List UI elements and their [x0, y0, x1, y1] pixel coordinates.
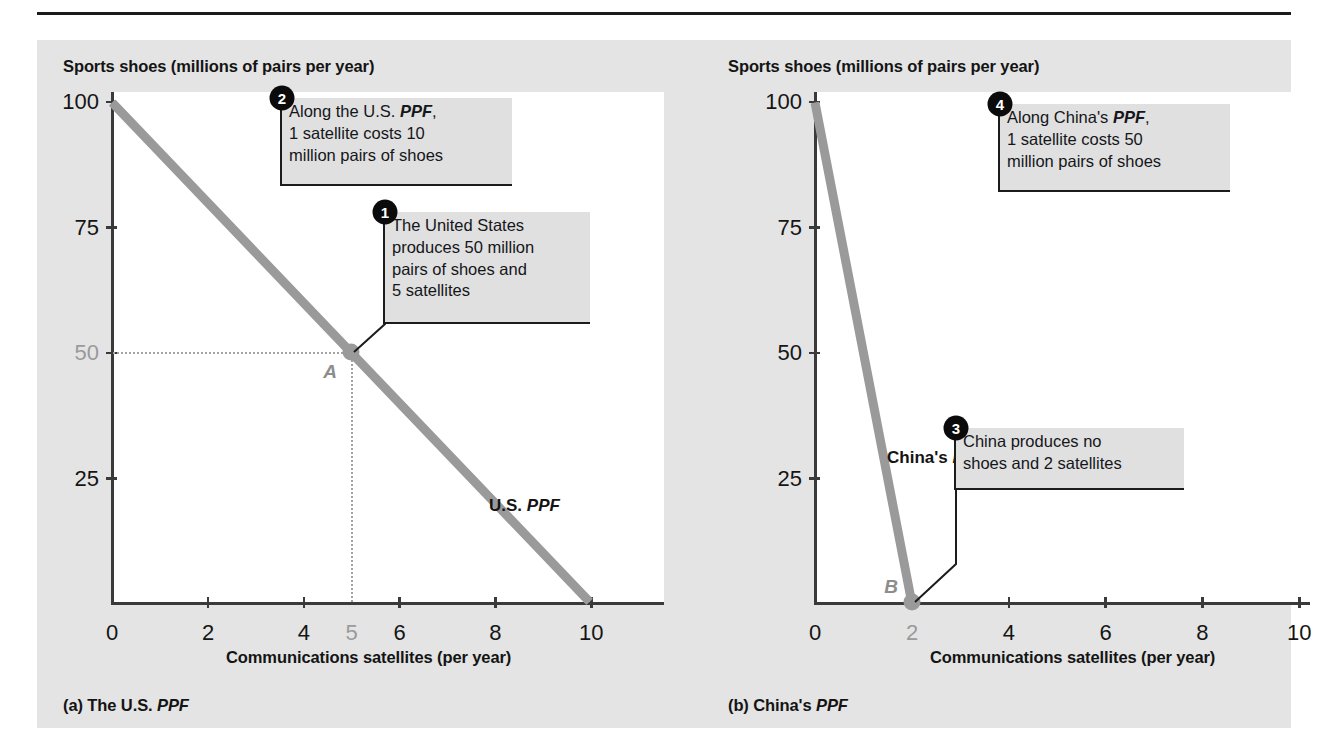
- chart-china-ppf: Sports shoes (millions of pairs per year…: [702, 40, 1319, 728]
- chart-b-y-axis-title: Sports shoes (millions of pairs per year…: [728, 57, 1039, 76]
- chart-a-xlabel-2: 2: [202, 620, 214, 646]
- chart-a-xlabel-0: 0: [106, 620, 118, 646]
- callout-4-line-2: 1 satellite costs 50: [1007, 129, 1221, 151]
- chart-b-caption: (b) China's PPF: [728, 696, 848, 715]
- callout-4-line-1-post: ,: [1145, 108, 1150, 126]
- chart-a-guide-vertical: [351, 352, 353, 602]
- chart-a-caption-pre: (a) The U.S.: [63, 696, 157, 714]
- figure-top-rule: [37, 12, 1291, 15]
- chart-a-xtick-8: [494, 597, 497, 608]
- chart-a-ylabel-100: 100: [37, 89, 99, 115]
- chart-a-ylabel-50: 50: [37, 340, 99, 366]
- chart-a-y-axis-title: Sports shoes (millions of pairs per year…: [63, 57, 374, 76]
- chart-a-xtick-4: [303, 597, 306, 608]
- chart-b-point-B-label: B: [884, 576, 898, 598]
- callout-3-line-2: shoes and 2 satellites: [963, 453, 1175, 475]
- chart-a-series-label: U.S. PPF: [489, 496, 560, 516]
- chart-b-series-label-text: China's: [887, 448, 952, 467]
- callout-3-badge: 3: [944, 416, 969, 441]
- callout-2-badge: 2: [270, 86, 295, 111]
- chart-a-caption: (a) The U.S. PPF: [63, 696, 189, 715]
- callout-4-badge: 4: [988, 92, 1013, 117]
- chart-a-xlabel-5: 5: [346, 620, 358, 646]
- callout-3: China produces no shoes and 2 satellites: [954, 428, 1184, 490]
- callout-3-line-1: China produces no: [963, 431, 1175, 453]
- chart-a-xlabel-8: 8: [489, 620, 501, 646]
- callout-1-line-2: produces 50 million: [392, 237, 581, 259]
- chart-b-y-axis: [814, 92, 817, 604]
- callout-1-badge: 1: [373, 200, 398, 225]
- chart-b-caption-em: PPF: [816, 696, 848, 714]
- chart-a-series-label-em: PPF: [527, 496, 560, 515]
- callout-2-line-1: Along the U.S. PPF,: [289, 101, 503, 123]
- chart-a-x-axis-title: Communications satellites (per year): [226, 648, 511, 667]
- chart-a-xlabel-6: 6: [393, 620, 405, 646]
- chart-b-ylabel-25: 25: [740, 466, 802, 492]
- chart-b-ytick-25: [809, 477, 820, 480]
- callout-2-line-1-pre: Along the U.S.: [289, 102, 400, 120]
- callout-1: The United States produces 50 million pa…: [383, 212, 590, 324]
- chart-a-ylabel-75: 75: [37, 215, 99, 241]
- chart-a-point-A: [343, 344, 360, 361]
- chart-a-x-axis: [111, 602, 664, 605]
- callout-4-line-1-pre: Along China's: [1007, 108, 1113, 126]
- chart-b-xlabel-10: 10: [1287, 620, 1311, 646]
- callout-1-line-4: 5 satellites: [392, 280, 581, 302]
- chart-b-xtick-4: [1008, 597, 1011, 608]
- chart-b-ytick-50: [809, 352, 820, 355]
- chart-a-ytick-25: [106, 477, 117, 480]
- callout-4-line-1-em: PPF: [1113, 108, 1145, 126]
- chart-a-ytick-75: [106, 226, 117, 229]
- chart-b-point-B: [903, 594, 920, 611]
- callout-2-line-1-em: PPF: [400, 102, 432, 120]
- chart-b-xtick-6: [1104, 597, 1107, 608]
- chart-b-ylabel-75: 75: [740, 215, 802, 241]
- chart-a-xtick-6: [398, 597, 401, 608]
- chart-a-y-axis: [111, 92, 114, 604]
- callout-2-line-3: million pairs of shoes: [289, 145, 503, 167]
- chart-a-xlabel-10: 10: [579, 620, 603, 646]
- chart-b-ylabel-100: 100: [740, 89, 802, 115]
- chart-a-xtick-2: [207, 597, 210, 608]
- chart-b-ytick-75: [809, 226, 820, 229]
- chart-b-xlabel-0: 0: [809, 620, 821, 646]
- callout-2: Along the U.S. PPF, 1 satellite costs 10…: [280, 98, 512, 186]
- chart-a-caption-em: PPF: [157, 696, 189, 714]
- callout-1-line-3: pairs of shoes and: [392, 259, 581, 281]
- chart-a-point-A-label: A: [323, 361, 337, 383]
- ppf-figure: Sports shoes (millions of pairs per year…: [0, 0, 1319, 754]
- chart-b-x-axis: [814, 602, 1310, 605]
- chart-b-xlabel-8: 8: [1196, 620, 1208, 646]
- chart-b-xlabel-4: 4: [1003, 620, 1015, 646]
- callout-4-line-3: million pairs of shoes: [1007, 151, 1221, 173]
- chart-a-series-label-text: U.S.: [489, 496, 527, 515]
- chart-a-xlabel-4: 4: [298, 620, 310, 646]
- chart-a-guide-horizontal: [113, 352, 351, 354]
- chart-b-x-axis-title: Communications satellites (per year): [930, 648, 1215, 667]
- chart-us-ppf: Sports shoes (millions of pairs per year…: [37, 40, 664, 728]
- callout-2-line-2: 1 satellite costs 10: [289, 123, 503, 145]
- chart-b-xtick-10: [1298, 597, 1301, 608]
- chart-b-caption-pre: (b) China's: [728, 696, 816, 714]
- chart-b-xtick-8: [1201, 597, 1204, 608]
- callout-1-line-1: The United States: [392, 215, 581, 237]
- chart-a-ylabel-25: 25: [37, 466, 99, 492]
- callout-4: Along China's PPF, 1 satellite costs 50 …: [998, 104, 1230, 192]
- chart-b-ylabel-50: 50: [740, 340, 802, 366]
- chart-b-xlabel-2: 2: [906, 620, 918, 646]
- callout-2-line-1-post: ,: [432, 102, 437, 120]
- callout-4-line-1: Along China's PPF,: [1007, 107, 1221, 129]
- chart-b-xlabel-6: 6: [1099, 620, 1111, 646]
